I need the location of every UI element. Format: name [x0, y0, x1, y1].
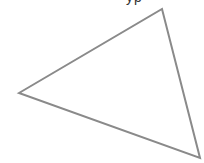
diagram-canvas: yp	[0, 0, 204, 163]
clipped-label: yp	[126, 0, 143, 5]
triangle-shape	[0, 0, 204, 163]
